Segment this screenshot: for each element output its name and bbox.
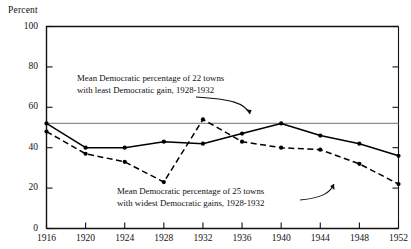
x-tick-label-1932: 1932 <box>183 233 223 243</box>
y-tick-label-60: 60 <box>10 101 38 111</box>
y-tick-label-0: 0 <box>10 223 38 233</box>
x-tick-label-1948: 1948 <box>339 233 379 243</box>
annotation-lower-line1: Mean Democratic percentage of 25 towns <box>117 186 264 198</box>
x-tick-label-1916: 1916 <box>27 233 67 243</box>
annotation-lower: Mean Democratic percentage of 25 towns w… <box>117 186 264 209</box>
x-tick-label-1920: 1920 <box>66 233 106 243</box>
annotation-upper: Mean Democratic percentage of 22 towns w… <box>77 73 224 96</box>
y-tick-label-40: 40 <box>10 142 38 152</box>
chart-container: Percent 020406080100 1916192019241928193… <box>0 0 411 249</box>
x-tick-label-1940: 1940 <box>261 233 301 243</box>
x-tick-label-1952: 1952 <box>379 233 411 243</box>
annotation-lower-line2: with widest Democratic gains, 1928-1932 <box>117 198 264 210</box>
chart-svg <box>0 0 411 249</box>
annotation-upper-line2: with least Democratic gain, 1928-1932 <box>77 85 224 97</box>
y-tick-label-80: 80 <box>10 61 38 71</box>
y-tick-label-20: 20 <box>10 182 38 192</box>
x-tick-label-1936: 1936 <box>222 233 262 243</box>
y-tick-label-100: 100 <box>10 21 38 31</box>
x-tick-label-1928: 1928 <box>144 233 184 243</box>
annotation-upper-line1: Mean Democratic percentage of 22 towns <box>77 73 224 85</box>
x-tick-label-1924: 1924 <box>105 233 145 243</box>
x-tick-label-1944: 1944 <box>300 233 340 243</box>
